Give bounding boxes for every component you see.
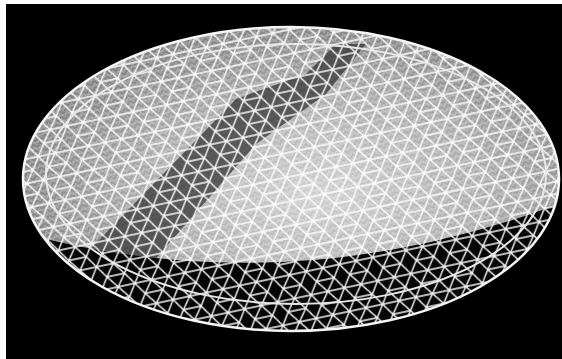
image-frame: Wireframe rendering of a shallow geodesi… bbox=[6, 4, 562, 359]
geodesic-dome-image bbox=[6, 4, 562, 359]
